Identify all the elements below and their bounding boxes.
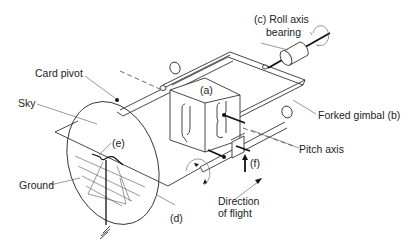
- pendulous-vane: [231, 133, 250, 172]
- leader-pitch-axis: [251, 130, 299, 148]
- label-rotor-case: (a): [200, 84, 213, 96]
- label-ground: Ground: [19, 179, 54, 191]
- gimbal-pivot-hole: [263, 65, 268, 69]
- diagram-drawing: [0, 0, 411, 248]
- label-pendulous-vane: (f): [250, 157, 260, 169]
- label-direction-1: Direction: [218, 195, 259, 207]
- plate-left-edge: [55, 121, 78, 132]
- pitch-axis-shaft-front: [208, 150, 224, 157]
- rotation-arrow: [186, 159, 210, 185]
- leader-forked-gimbal: [293, 100, 316, 114]
- horizon-card: [52, 89, 175, 239]
- leader-roll-bearing: [261, 43, 288, 50]
- label-roll-axis-bearing-1: (c) Roll axis: [254, 13, 309, 25]
- gyro-horizon-diagram: (c) Roll axis bearing Card pivot (a) Sky…: [0, 0, 411, 248]
- leader-card-pivot: [85, 76, 115, 98]
- label-horizon-bar: (e): [112, 137, 125, 149]
- label-forked-gimbal: Forked gimbal (b): [318, 109, 400, 121]
- label-direction-2: of flight: [218, 207, 252, 219]
- leader-ground: [50, 178, 80, 185]
- leader-d: [157, 195, 175, 205]
- card-pivot-axis: [120, 71, 162, 90]
- label-card-pivot: Card pivot: [35, 67, 83, 79]
- label-sky: Sky: [18, 97, 36, 109]
- card-pivot-point: [115, 98, 119, 102]
- leader-sky: [37, 104, 97, 124]
- label-card: (d): [170, 212, 183, 224]
- label-pitch-axis: Pitch axis: [299, 143, 344, 155]
- leader-e: [99, 143, 111, 155]
- label-roll-axis-bearing-2: bearing: [266, 26, 301, 38]
